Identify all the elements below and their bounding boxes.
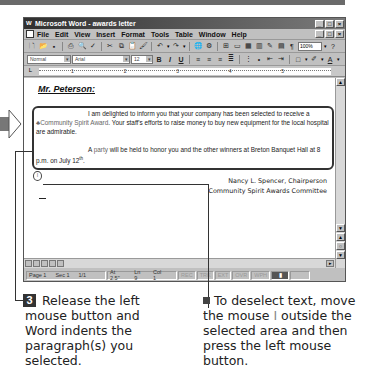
salutation: Mr. Peterson: xyxy=(38,84,95,94)
status-bar: Page 1 Sec 1 1/1 At 2.5" Ln 9 Col 1 REC … xyxy=(24,269,346,281)
vertical-scrollbar[interactable]: ▲ ▼ ▲ ○ ▼ xyxy=(335,78,345,268)
redo-icon[interactable]: ↷ xyxy=(171,42,181,51)
status-trk[interactable]: TRK xyxy=(197,271,214,280)
word-window: W Microsoft Word - awards letter _ □ × F… xyxy=(23,17,346,282)
document-icon[interactable] xyxy=(26,30,34,38)
decrease-indent-icon[interactable]: ⇤ xyxy=(265,55,275,64)
spelling-status-icon[interactable]: ▮ xyxy=(271,271,289,280)
bullet-icon xyxy=(203,297,210,304)
cut-icon[interactable]: ✂ xyxy=(105,42,115,51)
spelling-icon[interactable]: ✓ xyxy=(88,42,98,51)
ruler-mark: 4 xyxy=(229,68,232,74)
new-icon[interactable]: 🗋 xyxy=(27,42,37,51)
web-layout-view-button[interactable] xyxy=(33,260,40,267)
print-layout-view-button[interactable] xyxy=(41,260,48,267)
scroll-down-button[interactable]: ▼ xyxy=(336,224,345,232)
print-icon[interactable]: ⎙ xyxy=(66,42,76,51)
menu-insert[interactable]: Insert xyxy=(96,31,115,38)
excel-icon[interactable]: ▦ xyxy=(243,42,253,51)
status-ext[interactable]: EXT xyxy=(215,271,232,280)
menu-help[interactable]: Help xyxy=(232,31,247,38)
open-icon[interactable]: 📂 xyxy=(38,42,48,51)
document-map-icon[interactable]: ▤ xyxy=(276,42,286,51)
align-left-icon[interactable]: ≡ xyxy=(193,55,203,64)
menu-edit[interactable]: Edit xyxy=(55,31,68,38)
show-hide-icon[interactable]: ¶ xyxy=(287,42,297,51)
close-button[interactable]: × xyxy=(335,20,344,28)
paste-icon[interactable]: 📋 xyxy=(127,42,137,51)
status-ovr[interactable]: OVR xyxy=(232,271,250,280)
normal-view-button[interactable] xyxy=(25,260,32,267)
print-preview-icon[interactable]: 🔍 xyxy=(77,42,87,51)
zoom-select[interactable]: 100% xyxy=(298,42,322,51)
horizontal-scrollbar[interactable]: ▸ xyxy=(24,258,335,268)
outline-view-button[interactable] xyxy=(49,260,56,267)
minimize-button[interactable]: _ xyxy=(315,20,324,28)
bullets-icon[interactable]: • xyxy=(254,55,264,64)
formatting-toolbar: Normal▾ Arial▾ 12▾ B I U ≡ ≡ ≡ ≣ ⋮ • ⇤ ⇥… xyxy=(24,53,345,66)
save-icon[interactable]: ▪ xyxy=(49,42,59,51)
menu-table[interactable]: Table xyxy=(175,31,193,38)
scroll-right-button[interactable]: ▸ xyxy=(326,260,334,267)
columns-icon[interactable]: ▥ xyxy=(254,42,264,51)
menu-format[interactable]: Format xyxy=(121,31,145,38)
text-cursor xyxy=(39,198,46,199)
bold-button[interactable]: B xyxy=(154,55,164,64)
maximize-button[interactable]: □ xyxy=(325,20,334,28)
status-at: At 2.5" xyxy=(110,269,125,281)
doc-close-button[interactable]: × xyxy=(335,30,344,38)
status-wph[interactable]: WPH xyxy=(251,271,270,280)
status-page: Page 1 xyxy=(29,272,46,278)
title-bar: W Microsoft Word - awards letter _ □ × xyxy=(24,18,345,29)
menu-window[interactable]: Window xyxy=(199,31,226,38)
doc-restore-button[interactable]: □ xyxy=(325,30,334,38)
status-empty xyxy=(290,271,310,280)
drawing-icon[interactable]: ✎ xyxy=(265,42,275,51)
select-browse-object-button[interactable]: ○ xyxy=(336,242,345,250)
next-page-button[interactable]: ▼ xyxy=(336,251,345,259)
border-icon[interactable]: □ xyxy=(293,55,303,64)
pointer-arrow-icon xyxy=(0,108,22,140)
align-right-icon[interactable]: ≡ xyxy=(215,55,225,64)
menu-view[interactable]: View xyxy=(74,31,90,38)
align-center-icon[interactable]: ≡ xyxy=(204,55,214,64)
callout-line-tip-h xyxy=(43,184,209,185)
italic-button[interactable]: I xyxy=(165,55,175,64)
numbering-icon[interactable]: ⋮ xyxy=(243,55,253,64)
doc-minimize-button[interactable]: _ xyxy=(315,30,324,38)
font-color-icon[interactable]: A xyxy=(325,55,335,64)
tables-icon[interactable]: ⊞ xyxy=(221,42,231,51)
web-icon[interactable]: 🌐 xyxy=(193,42,203,51)
font-size-select[interactable]: 12▾ xyxy=(131,55,153,64)
callout-line-tip-v xyxy=(208,184,209,308)
status-rec[interactable]: REC xyxy=(178,271,196,280)
increase-indent-icon[interactable]: ⇥ xyxy=(276,55,286,64)
undo-icon[interactable]: ↶ xyxy=(155,42,165,51)
ruler-mark: 3 xyxy=(176,68,179,74)
highlight-icon[interactable]: ✐ xyxy=(309,55,319,64)
scroll-left-button[interactable] xyxy=(57,260,64,267)
insert-table-icon[interactable]: ▭ xyxy=(232,42,242,51)
underline-button[interactable]: U xyxy=(176,55,186,64)
status-line: Ln 9 xyxy=(134,269,144,281)
copy-icon[interactable]: ⧉ xyxy=(116,42,126,51)
menu-file[interactable]: File xyxy=(37,31,49,38)
menu-tools[interactable]: Tools xyxy=(151,31,169,38)
signature-title: Community Spirit Awards Committee xyxy=(208,187,327,195)
hyperlink-icon[interactable]: ⚙ xyxy=(204,42,214,51)
document-area[interactable]: Mr. Peterson: I am delighted to inform y… xyxy=(24,78,335,258)
justify-icon[interactable]: ≣ xyxy=(226,55,236,64)
step-caption: Release the left mouse button and Word i… xyxy=(25,293,175,368)
signature-name: Nancy L. Spencer, Chairperson xyxy=(228,177,327,185)
paragraph-1: I am delighted to inform you that your c… xyxy=(36,109,332,136)
status-column: Col 1 xyxy=(153,269,165,281)
font-select[interactable]: Arial▾ xyxy=(72,55,130,64)
menu-bar: File Edit View Insert Format Tools Table… xyxy=(24,29,345,40)
scroll-up-button[interactable]: ▲ xyxy=(336,78,345,86)
tab-selector-icon[interactable]: L xyxy=(26,67,35,75)
style-select[interactable]: Normal▾ xyxy=(27,55,71,64)
window-title: Microsoft Word - awards letter xyxy=(35,20,315,27)
format-painter-icon[interactable]: 🖌 xyxy=(138,42,148,51)
help-icon[interactable]: ? xyxy=(328,42,338,51)
previous-page-button[interactable]: ▲ xyxy=(336,233,345,241)
